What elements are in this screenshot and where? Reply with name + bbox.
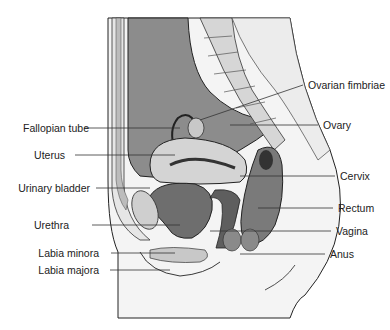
label-cervix: Cervix bbox=[340, 170, 370, 182]
labia-minora-shape bbox=[150, 248, 208, 263]
label-urethra: Urethra bbox=[34, 219, 69, 231]
label-labia-majora: Labia majora bbox=[38, 264, 99, 276]
label-uterus: Uterus bbox=[34, 149, 65, 161]
ovary-shape bbox=[188, 118, 204, 138]
label-anus: Anus bbox=[330, 248, 354, 260]
label-fallopian-tube: Fallopian tube bbox=[23, 122, 89, 134]
anal-sphincter-2 bbox=[241, 229, 259, 251]
label-labia-minora: Labia minora bbox=[38, 247, 99, 259]
label-ovary: Ovary bbox=[323, 119, 351, 131]
label-rectum: Rectum bbox=[338, 202, 374, 214]
label-ovarian-fimbriae: Ovarian fimbriae bbox=[308, 79, 385, 91]
rectum-lumen bbox=[259, 150, 273, 170]
label-urinary-bladder: Urinary bladder bbox=[18, 182, 90, 194]
anatomy-diagram bbox=[0, 0, 390, 330]
anal-sphincter bbox=[223, 229, 241, 251]
label-vagina: Vagina bbox=[336, 225, 368, 237]
